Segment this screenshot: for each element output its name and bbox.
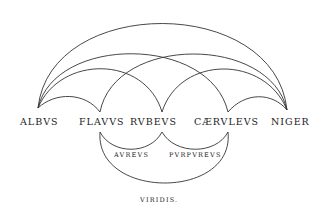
arc-albus-caeruleus <box>38 54 228 112</box>
arc-flavus-rubeus <box>100 132 162 149</box>
arc-albus-rubeus <box>38 69 162 112</box>
arc-rubeus-niger <box>162 69 287 112</box>
label-viridis: VIRIDIS. <box>140 196 178 204</box>
label-niger: NIGER <box>271 116 310 127</box>
arc-caeruleus-niger <box>228 97 287 112</box>
label-purpureus: PVRPVREVS <box>169 151 222 159</box>
arc-albus-flavus <box>38 96 100 112</box>
arc-rubeus-caeruleus <box>162 132 228 149</box>
color-arc-diagram <box>0 0 329 213</box>
label-aureus: AVREVS <box>114 151 149 159</box>
label-albus: ALBVS <box>20 116 59 127</box>
arc-flavus-niger <box>100 54 287 112</box>
label-rubeus: RVBEVS <box>130 116 177 127</box>
label-caeruleus: CÆRVLEVS <box>194 116 259 127</box>
label-flavus: FLAVVS <box>79 116 125 127</box>
